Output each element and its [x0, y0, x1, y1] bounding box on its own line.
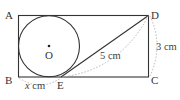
- center-point-o: [48, 45, 51, 48]
- geometry-figure: A B C D E O 5 cm 3 cm x cm: [0, 0, 180, 100]
- label-b: B: [5, 74, 12, 86]
- unit-cm: cm: [30, 80, 45, 91]
- rectangle-abcd: [19, 16, 149, 78]
- label-a: A: [5, 9, 13, 21]
- label-de-length: 5 cm: [100, 50, 121, 61]
- label-o: O: [45, 49, 53, 61]
- label-be-length: x cm: [24, 80, 45, 91]
- label-dc-length: 3 cm: [156, 41, 177, 52]
- label-d: D: [151, 9, 159, 21]
- label-c: C: [151, 74, 158, 86]
- segment-de: [61, 16, 149, 78]
- label-e: E: [57, 79, 64, 91]
